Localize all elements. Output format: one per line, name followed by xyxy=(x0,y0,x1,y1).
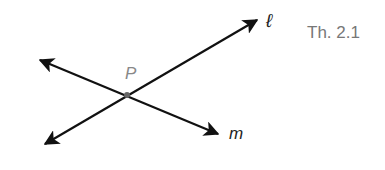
line-l xyxy=(45,20,257,144)
point-p xyxy=(124,92,130,98)
point-p-label: P xyxy=(125,64,136,84)
line-m-label: m xyxy=(229,124,243,144)
theorem-label: Th. 2.1 xyxy=(307,23,360,43)
line-l-label: ℓ xyxy=(266,10,272,32)
